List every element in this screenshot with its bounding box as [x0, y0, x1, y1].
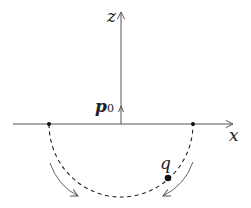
- charge-path: [49, 124, 193, 197]
- right-endpoint: [191, 122, 195, 126]
- z-axis-label: z: [107, 8, 116, 25]
- dipole-label: p0: [95, 98, 114, 115]
- x-axis-label: x: [229, 127, 239, 144]
- dipole-charge-diagram: z x p0 q: [0, 0, 251, 208]
- charge-label: q: [160, 155, 171, 172]
- diagram-svg: [0, 0, 251, 208]
- dipole-symbol: p: [95, 96, 107, 116]
- left-endpoint: [47, 122, 51, 126]
- charge-q-dot: [165, 175, 172, 182]
- dipole-subscript: 0: [107, 102, 114, 115]
